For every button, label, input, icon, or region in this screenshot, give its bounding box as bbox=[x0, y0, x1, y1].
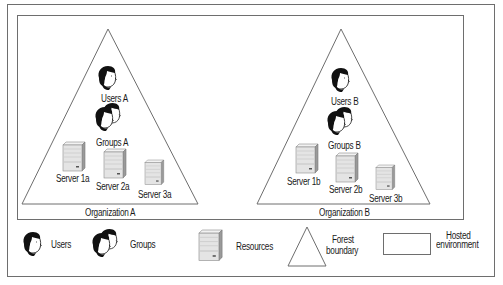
legend-forest-label-line2: boundary bbox=[326, 246, 358, 256]
server-1a-label: Server 1a bbox=[56, 174, 89, 184]
server-1b-label: Server 1b bbox=[287, 177, 320, 187]
users-b-label: Users B bbox=[331, 97, 358, 107]
legend-forest-triangle-icon bbox=[288, 227, 326, 266]
server-2a-icon bbox=[104, 149, 126, 178]
legend-hosted-box-icon bbox=[384, 234, 431, 255]
server-2b-label: Server 2b bbox=[329, 185, 362, 195]
legend-users-label: Users bbox=[51, 240, 71, 250]
legend-groups-icon bbox=[92, 229, 117, 257]
server-3b-icon bbox=[376, 165, 395, 190]
server-3b-label: Server 3b bbox=[369, 194, 402, 204]
organization-a-label: Organization A bbox=[85, 208, 135, 218]
server-1b-icon bbox=[296, 144, 318, 173]
server-3a-label: Server 3a bbox=[138, 190, 171, 200]
users-a-label: Users A bbox=[101, 94, 128, 104]
legend-resources-label: Resources bbox=[236, 242, 273, 252]
legend-hosted-label-line2: environment bbox=[436, 240, 478, 250]
legend-users-icon bbox=[23, 232, 41, 256]
server-1a-icon bbox=[63, 142, 85, 171]
organization-b-label: Organization B bbox=[319, 208, 370, 218]
groups-a-label: Groups A bbox=[96, 138, 128, 148]
legend-forest-label-line1: Forest bbox=[332, 235, 354, 245]
hosted-environment-box bbox=[18, 16, 464, 220]
outer-frame bbox=[8, 5, 495, 277]
legend-groups-label: Groups bbox=[130, 240, 155, 250]
server-3a-icon bbox=[145, 160, 164, 185]
server-2a-label: Server 2a bbox=[96, 182, 129, 192]
server-2b-icon bbox=[336, 153, 358, 182]
legend-resources-icon bbox=[199, 230, 222, 260]
users-a-icon bbox=[98, 66, 116, 90]
users-b-icon bbox=[331, 68, 349, 92]
groups-a-icon bbox=[95, 103, 120, 131]
groups-b-label: Groups B bbox=[328, 141, 361, 151]
groups-b-icon bbox=[327, 107, 352, 135]
